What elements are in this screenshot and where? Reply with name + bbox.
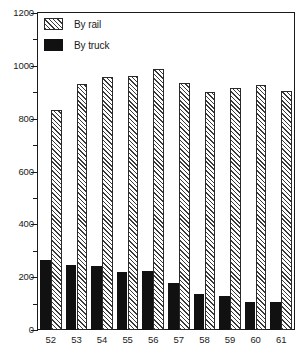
y-tick-label: 200 (0, 272, 34, 282)
y-tick-major (31, 172, 38, 173)
x-tick-label: 57 (166, 334, 192, 346)
hatched-swatch-icon (44, 18, 63, 30)
bar-group (38, 13, 294, 330)
y-tick-major (31, 224, 38, 225)
bar-truck (270, 302, 281, 330)
y-tick-label: 0 (0, 325, 34, 335)
x-axis: 52535455565758596061 (38, 334, 294, 348)
y-tick-major (31, 277, 38, 278)
y-tick-major (31, 119, 38, 120)
x-tick-label: 56 (140, 334, 166, 346)
chart-legend: By rail By truck (44, 15, 164, 57)
y-tick-label: 800 (0, 114, 34, 124)
x-tick-label: 52 (38, 334, 64, 346)
x-tick-label: 54 (89, 334, 115, 346)
y-tick-major (31, 330, 38, 331)
y-tick-major (31, 13, 38, 14)
y-tick-label: 600 (0, 167, 34, 177)
x-tick-label: 58 (192, 334, 218, 346)
y-axis: 020040060080010001200 (0, 0, 34, 349)
y-tick-label: 400 (0, 219, 34, 229)
x-tick-label: 61 (268, 334, 294, 346)
x-tick-label: 60 (243, 334, 269, 346)
y-tick-label: 1200 (0, 8, 34, 18)
x-tick-label: 53 (64, 334, 90, 346)
legend-label-by-rail: By rail (74, 19, 101, 30)
bar-chart: 020040060080010001200 525354555657585960… (0, 0, 303, 349)
legend-item-by-rail: By rail (44, 15, 164, 33)
x-tick-label: 55 (115, 334, 141, 346)
y-tick-major (31, 66, 38, 67)
bar-rail (281, 91, 292, 330)
bars-layer (38, 13, 294, 330)
solid-swatch-icon (44, 39, 63, 51)
x-tick-label: 59 (217, 334, 243, 346)
y-tick-label: 1000 (0, 61, 34, 71)
legend-label-by-truck: By truck (74, 40, 109, 51)
legend-item-by-truck: By truck (44, 36, 164, 54)
